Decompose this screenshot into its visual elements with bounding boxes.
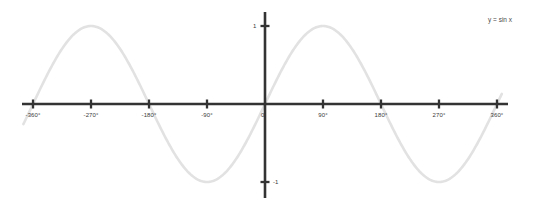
- legend-series-label: y = sin x: [488, 17, 512, 24]
- plot-area: [0, 0, 540, 206]
- x-tick-label: 90°: [318, 112, 327, 118]
- x-tick-label: 0: [261, 112, 264, 118]
- x-tick-label: -90°: [201, 112, 212, 118]
- sine-wave-chart: -360°-270°-180°-90°090°180°270°360° 1-1 …: [0, 0, 540, 206]
- x-tick-label: 360°: [491, 112, 504, 118]
- x-tick-label: -180°: [142, 112, 157, 118]
- y-tick-label: 1: [253, 23, 256, 29]
- x-tick-label: -360°: [26, 112, 41, 118]
- axes-group: [22, 12, 508, 198]
- x-tick-label: 180°: [375, 112, 388, 118]
- x-tick-label: 270°: [433, 112, 446, 118]
- y-tick-label: -1: [273, 179, 279, 185]
- x-tick-label: -270°: [84, 112, 99, 118]
